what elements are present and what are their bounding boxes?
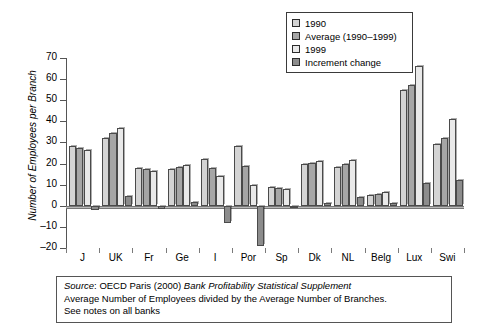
caption-source-mid: : OECD Paris (2000) xyxy=(94,280,184,291)
bar-swi-series-2 xyxy=(441,138,448,206)
bar-j-series-2 xyxy=(76,148,83,206)
y-axis-line xyxy=(66,58,67,248)
y-tick-label-5: 20 xyxy=(46,157,57,168)
y-tick-2: 50 xyxy=(60,100,66,101)
y-tick-label-8: –10 xyxy=(40,220,57,231)
bar-uk-series-3 xyxy=(117,128,124,206)
bar-swi-series-4 xyxy=(456,180,463,205)
bar-group-belg xyxy=(367,58,397,248)
y-axis-title: Number of Employees per Branch xyxy=(27,56,38,236)
y-tick-5: 20 xyxy=(60,164,66,165)
bar-belg-series-4 xyxy=(390,203,397,206)
bar-swi-series-1 xyxy=(433,144,440,206)
legend-label-1999: 1999 xyxy=(305,44,326,55)
x-axis-label-j: J xyxy=(66,252,99,263)
bar-lux-series-1 xyxy=(400,90,407,206)
bar-ge-series-4 xyxy=(191,202,198,206)
y-tick-6: 10 xyxy=(60,185,66,186)
legend-swatch-1999 xyxy=(292,45,300,53)
bar-por-series-3 xyxy=(250,185,257,206)
bar-group-i xyxy=(201,58,231,248)
bar-nl-series-3 xyxy=(349,160,356,205)
bar-swi-series-3 xyxy=(449,119,456,206)
bar-group-uk xyxy=(102,58,132,248)
y-tick-label-1: 60 xyxy=(46,72,57,83)
bar-i-series-3 xyxy=(216,176,223,206)
y-tick-label-4: 30 xyxy=(46,135,57,146)
bar-por-series-1 xyxy=(234,146,241,206)
bar-sp-series-1 xyxy=(268,187,275,206)
bar-sp-series-4 xyxy=(290,206,297,208)
bar-ge-series-2 xyxy=(176,167,183,206)
bar-fr-series-3 xyxy=(150,171,157,206)
bar-j-series-1 xyxy=(69,146,76,206)
x-axis-label-fr: Fr xyxy=(132,252,165,263)
bar-sp-series-3 xyxy=(283,189,290,206)
bar-nl-series-2 xyxy=(342,164,349,206)
bar-group-lux xyxy=(400,58,430,248)
caption-source-title: Bank Profitability Statistical Supplemen… xyxy=(184,280,351,291)
x-tick-end xyxy=(464,248,465,253)
y-tick-8: –10 xyxy=(60,227,66,228)
bar-nl-series-1 xyxy=(334,167,341,206)
legend-label-1990: 1990 xyxy=(305,18,326,29)
caption-source-word: Source xyxy=(64,280,94,291)
bar-j-series-4 xyxy=(91,206,98,210)
x-axis-label-swi: Swi xyxy=(431,252,464,263)
bar-group-dk xyxy=(301,58,331,248)
bar-fr-series-2 xyxy=(143,169,150,206)
y-tick-label-2: 50 xyxy=(46,93,57,104)
bar-lux-series-4 xyxy=(423,183,430,206)
x-axis-label-uk: UK xyxy=(99,252,132,263)
bar-i-series-2 xyxy=(209,168,216,206)
chart-plot-area: 706050403020100–10–20 JUKFrGeIPorSpDkNLB… xyxy=(66,58,464,248)
chart-caption: Source: OECD Paris (2000) Bank Profitabi… xyxy=(56,276,452,323)
legend-swatch-1990 xyxy=(292,19,300,27)
bar-i-series-1 xyxy=(201,159,208,205)
caption-line-method: Average Number of Employees divided by t… xyxy=(64,293,445,306)
y-tick-0: 70 xyxy=(60,58,66,59)
bar-ge-series-3 xyxy=(183,165,190,206)
x-axis-label-i: I xyxy=(199,252,232,263)
bar-sp-series-2 xyxy=(275,188,282,206)
x-axis-label-ge: Ge xyxy=(166,252,199,263)
legend-item-average: Average (1990–1999) xyxy=(292,30,407,42)
legend-item-1990: 1990 xyxy=(292,17,407,29)
bar-j-series-3 xyxy=(84,150,91,206)
x-axis-label-belg: Belg xyxy=(365,252,398,263)
legend-label-average: Average (1990–1999) xyxy=(305,31,397,42)
bar-dk-series-1 xyxy=(301,164,308,206)
y-tick-label-7: 0 xyxy=(51,199,57,210)
bar-i-series-4 xyxy=(224,206,231,223)
legend-swatch-average xyxy=(292,32,300,40)
bar-belg-series-3 xyxy=(382,192,389,206)
bar-group-nl xyxy=(334,58,364,248)
y-tick-label-3: 40 xyxy=(46,114,57,125)
bar-group-fr xyxy=(135,58,165,248)
bar-group-j xyxy=(69,58,99,248)
bar-nl-series-4 xyxy=(357,197,364,205)
bar-lux-series-3 xyxy=(415,66,422,205)
y-tick-label-6: 10 xyxy=(46,178,57,189)
bar-group-swi xyxy=(433,58,463,248)
bar-uk-series-2 xyxy=(109,133,116,206)
bar-fr-series-1 xyxy=(135,168,142,206)
bar-group-sp xyxy=(268,58,298,248)
bar-uk-series-4 xyxy=(125,196,132,206)
x-axis-label-nl: NL xyxy=(331,252,364,263)
bar-por-series-4 xyxy=(257,206,264,246)
bar-dk-series-4 xyxy=(324,203,331,206)
x-axis-label-por: Por xyxy=(232,252,265,263)
x-axis-label-sp: Sp xyxy=(265,252,298,263)
x-axis-label-lux: Lux xyxy=(398,252,431,263)
bar-por-series-2 xyxy=(242,166,249,206)
y-tick-1: 60 xyxy=(60,79,66,80)
bar-lux-series-2 xyxy=(408,85,415,205)
y-tick-label-0: 70 xyxy=(46,51,57,62)
bar-uk-series-1 xyxy=(102,138,109,206)
bar-fr-series-4 xyxy=(158,206,165,209)
bar-belg-series-2 xyxy=(375,194,382,206)
bar-group-ge xyxy=(168,58,198,248)
x-axis-label-dk: Dk xyxy=(298,252,331,263)
y-tick-4: 30 xyxy=(60,142,66,143)
